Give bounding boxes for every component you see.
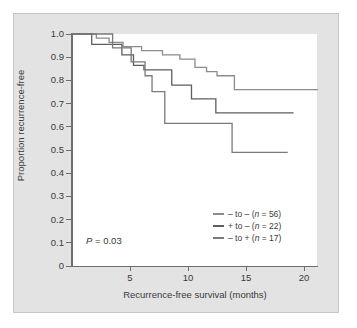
figure-container: 00.10.20.30.40.50.60.70.80.91.0 5101520 … [0, 0, 357, 328]
legend-line-swatch [213, 237, 224, 238]
curve-series-0 [72, 34, 318, 90]
legend-label: – to + (n = 17) [228, 233, 281, 243]
legend-label: – to – (n = 56) [228, 209, 281, 219]
curve-series-2 [72, 34, 288, 152]
curve-series-1 [72, 34, 294, 113]
survival-curves [0, 0, 357, 328]
legend-line-swatch [213, 225, 224, 226]
legend: – to – (n = 56)+ to – (n = 22)– to + (n … [213, 208, 281, 244]
legend-line-swatch [213, 213, 224, 214]
legend-label: + to – (n = 22) [228, 221, 281, 231]
legend-item-1[interactable]: + to – (n = 22) [213, 220, 281, 232]
legend-item-0[interactable]: – to – (n = 56) [213, 208, 281, 220]
legend-item-2[interactable]: – to + (n = 17) [213, 232, 281, 244]
